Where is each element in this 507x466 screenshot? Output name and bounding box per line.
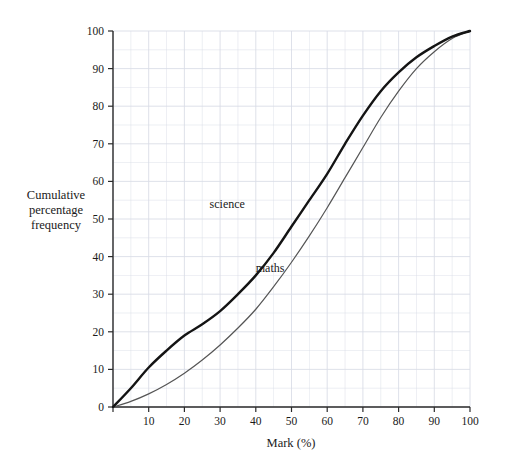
x-axis-tick-label: 40: [250, 415, 262, 427]
x-axis-tick-label: 100: [461, 415, 479, 427]
x-axis-tick-label: 30: [214, 415, 226, 427]
y-axis-tick-label: 40: [93, 251, 105, 263]
x-axis-tick-label: 90: [429, 415, 441, 427]
chart-page: 0102030405060708090100 10203040506070809…: [0, 0, 507, 466]
y-axis-tick-label: 0: [98, 401, 104, 413]
y-axis-tick-label: 70: [93, 138, 105, 150]
x-axis-tick-label: 60: [321, 415, 333, 427]
y-axis-tick-label: 30: [93, 288, 105, 300]
x-axis-tick-label: 10: [143, 415, 155, 427]
chart-background: [0, 0, 507, 466]
x-axis-tick-label: 50: [286, 415, 298, 427]
series-label-science: science: [210, 197, 245, 211]
x-axis-tick-label: 70: [357, 415, 369, 427]
x-axis-title: Mark (%): [267, 436, 316, 450]
y-axis-title-line: frequency: [31, 218, 82, 232]
y-axis-tick-label: 10: [93, 363, 105, 375]
y-axis-title-line: percentage: [29, 203, 84, 217]
y-axis-tick-label: 90: [93, 63, 105, 75]
y-axis-tick-label: 60: [93, 175, 105, 187]
x-axis-tick-label: 20: [179, 415, 191, 427]
y-axis-title-line: Cumulative: [27, 188, 86, 202]
series-label-maths: maths: [256, 261, 285, 275]
y-axis-tick-label: 80: [93, 100, 105, 112]
y-axis-tick-label: 20: [93, 326, 105, 338]
x-axis-tick-label: 80: [393, 415, 405, 427]
y-axis-tick-label: 50: [93, 213, 105, 225]
cumulative-frequency-chart: 0102030405060708090100 10203040506070809…: [0, 0, 507, 466]
y-axis-tick-label: 100: [87, 25, 105, 37]
y-axis-title: Cumulativepercentagefrequency: [27, 188, 86, 232]
